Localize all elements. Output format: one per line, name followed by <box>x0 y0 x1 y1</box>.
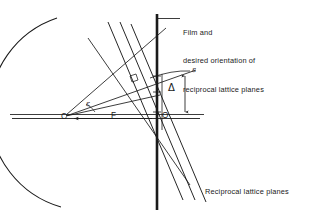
point-label-o: O <box>162 111 169 122</box>
crossing-ray <box>88 38 190 185</box>
point-label-c: C <box>61 112 67 123</box>
delta-label: Δ <box>168 82 175 95</box>
misset-plane-1 <box>108 22 183 200</box>
epsilon-label-left: ε <box>86 99 90 109</box>
epsilon-label-right: ε <box>192 65 196 75</box>
diagram-canvas: Film and desired orientation of reciproc… <box>0 0 312 217</box>
film-annotation: Film and desired orientation of reciproc… <box>183 9 264 113</box>
film-annotation-line-3: reciprocal lattice planes <box>183 85 264 94</box>
misset-annotation-line-1: Reciprocal lattice planes <box>205 187 289 196</box>
point-label-f: F <box>111 111 116 122</box>
ewald-sphere-arc <box>0 18 61 207</box>
misset-annotation: Reciprocal lattice planes misset by angl… <box>205 168 289 217</box>
film-annotation-line-1: Film and <box>183 28 264 37</box>
misset-annotation-line-2: misset by angleε <box>205 215 289 217</box>
